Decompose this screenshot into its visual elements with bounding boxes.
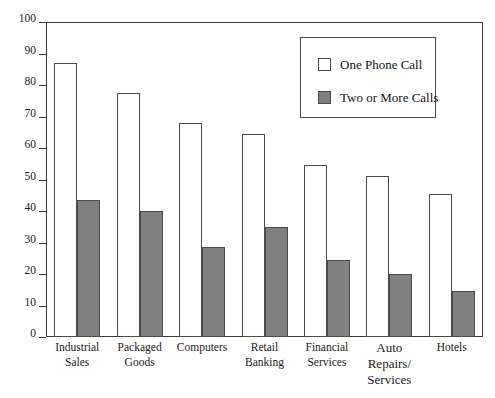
y-axis-tick-mark bbox=[39, 85, 46, 86]
chart-legend: One Phone CallTwo or More Calls bbox=[300, 37, 436, 118]
y-axis-tick-label: 70 bbox=[25, 108, 37, 120]
bar bbox=[77, 200, 100, 337]
x-axis-label: Hotels bbox=[413, 340, 491, 355]
bar bbox=[304, 165, 327, 337]
bar bbox=[179, 123, 202, 337]
bar bbox=[117, 93, 140, 337]
y-axis-tick-mark bbox=[39, 180, 46, 181]
legend-label: One Phone Call bbox=[340, 58, 422, 71]
y-axis-tick-mark bbox=[39, 54, 46, 55]
y-axis-tick-mark bbox=[39, 243, 46, 244]
y-axis-tick-mark bbox=[39, 337, 46, 338]
y-axis-tick-label: 10 bbox=[25, 297, 37, 309]
y-axis-tick-mark bbox=[39, 22, 46, 23]
y-axis-tick-label: 40 bbox=[25, 202, 37, 214]
y-axis-tick-label: 100 bbox=[19, 13, 36, 25]
y-axis: 0102030405060708090100 bbox=[0, 0, 46, 398]
bar bbox=[327, 260, 350, 337]
y-axis-tick-label: 60 bbox=[25, 139, 37, 151]
y-axis-tick-label: 20 bbox=[25, 265, 37, 277]
bar bbox=[265, 227, 288, 337]
legend-swatch bbox=[318, 58, 331, 71]
legend-label: Two or More Calls bbox=[340, 91, 438, 104]
y-axis-tick-label: 90 bbox=[25, 45, 37, 57]
bar bbox=[429, 194, 452, 337]
y-axis-tick-label: 0 bbox=[30, 328, 36, 340]
bar bbox=[389, 274, 412, 337]
y-axis-tick-label: 80 bbox=[25, 76, 37, 88]
bar bbox=[140, 211, 163, 337]
y-axis-tick-mark bbox=[39, 306, 46, 307]
bar-chart: 0102030405060708090100 Industrial SalesP… bbox=[0, 0, 495, 398]
legend-item: Two or More Calls bbox=[318, 91, 438, 104]
y-axis-tick-label: 30 bbox=[25, 234, 37, 246]
bar bbox=[366, 176, 389, 337]
bar bbox=[54, 63, 77, 337]
bar bbox=[202, 247, 225, 337]
y-axis-tick-mark bbox=[39, 274, 46, 275]
bar bbox=[242, 134, 265, 337]
y-axis-tick-mark bbox=[39, 211, 46, 212]
y-axis-tick-mark bbox=[39, 148, 46, 149]
legend-swatch bbox=[318, 91, 331, 104]
x-axis-labels: Industrial SalesPackaged GoodsComputersR… bbox=[46, 340, 483, 398]
y-axis-tick-label: 50 bbox=[25, 171, 37, 183]
legend-item: One Phone Call bbox=[318, 58, 422, 71]
y-axis-tick-mark bbox=[39, 117, 46, 118]
bar bbox=[452, 291, 475, 337]
